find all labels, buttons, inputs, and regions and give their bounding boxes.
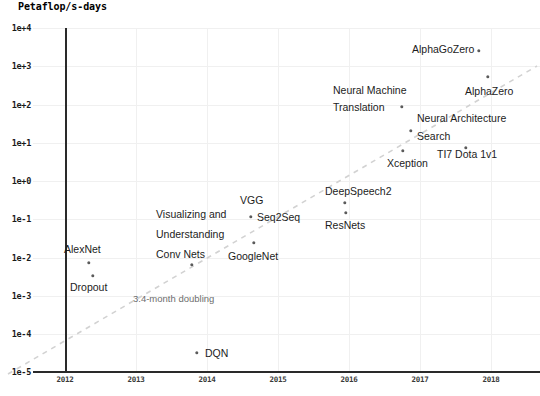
- y-tick-label: 1e+0: [0, 176, 31, 186]
- x-tick-label: 2017: [412, 375, 429, 384]
- point-label-dropout: Dropout: [70, 281, 107, 295]
- point-label-line-1: Neural Machine: [333, 84, 407, 98]
- gridline-vertical: [207, 28, 208, 372]
- scaling-scatter-chart: Petaflop/s-days 1e+4 1e+3 1e+2 1e+1 1e+0…: [0, 0, 540, 396]
- y-tick-label: 1e-5: [0, 367, 31, 377]
- trendline-annotation: 3.4-month doubling: [133, 293, 214, 304]
- point-label-vgg: VGG: [240, 194, 263, 208]
- point-label-line-2: Translation: [333, 101, 385, 115]
- gridline-horizontal: [33, 143, 540, 144]
- gridline-horizontal: [33, 66, 540, 67]
- gridline-vertical: [420, 28, 421, 372]
- plot-area: [33, 28, 540, 372]
- gridline-horizontal: [33, 105, 540, 106]
- gridline-vertical: [136, 28, 137, 372]
- point-label-alexnet: AlexNet: [64, 243, 101, 257]
- point-label-seq2seq: Seq2Seq: [257, 211, 300, 225]
- point-label-line-3: Conv Nets: [156, 248, 205, 262]
- gridline-horizontal: [33, 258, 540, 259]
- y-tick-label: 1e-4: [0, 329, 31, 339]
- point-label-alphagozero: AlphaGoZero: [412, 43, 474, 57]
- gridline-vertical: [349, 28, 350, 372]
- gridline-vertical: [278, 28, 279, 372]
- y-tick-label: 1e+1: [0, 138, 31, 148]
- x-tick-label: 2012: [57, 375, 74, 384]
- point-label-googlenet: GoogleNet: [228, 250, 278, 264]
- point-label-line-1: Neural Architecture: [417, 112, 506, 126]
- gridline-horizontal: [33, 296, 540, 297]
- x-tick-label: 2013: [128, 375, 145, 384]
- point-label-dqn: DQN: [205, 347, 228, 361]
- point-label-deepspeech2: DeepSpeech2: [325, 185, 392, 199]
- y-tick-label: 1e-2: [0, 253, 31, 263]
- y-tick-label: 1e-3: [0, 291, 31, 301]
- y-tick-label: 1e+2: [0, 100, 31, 110]
- x-tick-label: 2018: [483, 375, 500, 384]
- y-tick-label: 1e+4: [0, 23, 31, 33]
- x-axis-line: [33, 371, 540, 373]
- point-label-alphazero: AlphaZero: [465, 85, 513, 99]
- x-tick-label: 2015: [270, 375, 287, 384]
- y-tick-label: 1e-1: [0, 214, 31, 224]
- gridline-horizontal: [33, 181, 540, 182]
- gridline-horizontal: [33, 334, 540, 335]
- y-axis-title: Petaflop/s-days: [18, 1, 107, 12]
- point-label-line-2: Understanding: [156, 228, 224, 242]
- x-tick-label: 2014: [199, 375, 216, 384]
- point-label-resnets: ResNets: [325, 219, 365, 233]
- y-tick-label: 1e+3: [0, 61, 31, 71]
- y-axis-ticks: 1e+4 1e+3 1e+2 1e+1 1e+0 1e-1 1e-2 1e-3 …: [0, 0, 31, 396]
- point-label-line-2: Search: [417, 130, 450, 144]
- y-axis-line: [65, 28, 67, 373]
- point-label-ti7-dota: TI7 Dota 1v1: [437, 148, 497, 162]
- gridline-vertical: [491, 28, 492, 372]
- point-label-line-1: Visualizing and: [156, 208, 226, 222]
- x-tick-label: 2016: [341, 375, 358, 384]
- point-label-xception: Xception: [387, 157, 428, 171]
- gridline-horizontal: [33, 28, 540, 29]
